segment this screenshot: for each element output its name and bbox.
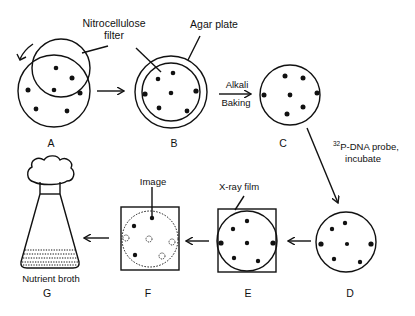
panel-d: D — [316, 212, 376, 299]
panel-a: Nitrocellulose filter A — [17, 17, 146, 149]
panel-b: Agar plate B — [135, 18, 238, 149]
filter-d-circle — [316, 212, 376, 272]
panel-label-g: G — [43, 287, 51, 299]
incubate-label: incubate — [345, 153, 381, 164]
dotted-filter-outline — [122, 211, 178, 267]
probe-label: 32P-DNA probe, — [333, 140, 399, 152]
panel-label-a: A — [47, 137, 54, 149]
agar-pointer-line — [188, 36, 200, 60]
panel-e: X-ray film E — [217, 181, 277, 299]
panel-f: Image F — [121, 176, 179, 299]
nitrocellulose-label: Nitrocellulose — [82, 17, 145, 29]
rotation-arrow-icon — [20, 44, 33, 59]
image-spot — [150, 216, 154, 220]
flask-body — [21, 194, 79, 268]
colony-hybridization-diagram: Nitrocellulose filter A Agar plate B Alk… — [0, 0, 415, 316]
probe-text: P-DNA probe, — [340, 141, 399, 152]
panel-label-c: C — [279, 137, 287, 149]
panel-label-b: B — [170, 137, 177, 149]
panel-g: Nutrient broth G — [21, 156, 80, 299]
image-label: Image — [140, 176, 166, 187]
nutrient-broth-label: Nutrient broth — [22, 273, 80, 284]
filter-pointer-line-b — [136, 48, 161, 72]
panel-label-d: D — [346, 287, 354, 299]
baking-label: Baking — [221, 97, 250, 108]
filter-label: filter — [104, 29, 124, 41]
xray-pointer-line — [235, 196, 244, 210]
agar-plate-label: Agar plate — [190, 18, 238, 30]
panel-label-f: F — [145, 287, 151, 299]
xray-film-label: X-ray film — [219, 181, 259, 192]
panel-label-e: E — [244, 287, 251, 299]
developed-film-square — [121, 207, 179, 270]
alkali-label: Alkali — [226, 79, 249, 90]
filter-pointer-line — [82, 46, 108, 53]
cotton-plug-icon — [28, 156, 74, 185]
